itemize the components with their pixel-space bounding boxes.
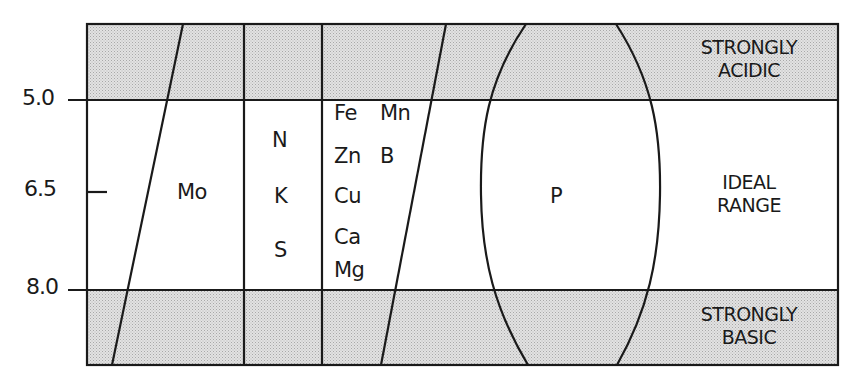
zone-ideal-range: IDEAL RANGE bbox=[660, 171, 838, 217]
zone-ideal-line1: IDEAL bbox=[660, 171, 838, 194]
zone-basic-line1: STRONGLY bbox=[660, 303, 838, 326]
zone-strongly-acidic: STRONGLY ACIDIC bbox=[660, 36, 838, 82]
zone-acidic-line2: ACIDIC bbox=[660, 59, 838, 82]
label-mo: Mo bbox=[177, 182, 207, 203]
label-fe: Fe bbox=[334, 103, 357, 124]
zone-acidic-line1: STRONGLY bbox=[660, 36, 838, 59]
label-k: K bbox=[274, 186, 287, 207]
label-n: N bbox=[272, 130, 287, 151]
zone-strongly-basic: STRONGLY BASIC bbox=[660, 303, 838, 349]
ph-tick-8-0: 8.0 bbox=[26, 276, 58, 298]
label-b: B bbox=[380, 146, 394, 167]
zone-ideal-line2: RANGE bbox=[660, 194, 838, 217]
label-zn: Zn bbox=[334, 146, 361, 167]
label-p: P bbox=[550, 186, 562, 207]
label-ca: Ca bbox=[334, 227, 361, 248]
ph-tick-6-5: 6.5 bbox=[24, 178, 56, 200]
label-mn: Mn bbox=[380, 103, 410, 124]
label-mg: Mg bbox=[334, 260, 364, 281]
label-cu: Cu bbox=[334, 186, 361, 207]
ph-tick-5-0: 5.0 bbox=[22, 87, 54, 109]
label-s: S bbox=[274, 240, 287, 261]
zone-basic-line2: BASIC bbox=[660, 326, 838, 349]
